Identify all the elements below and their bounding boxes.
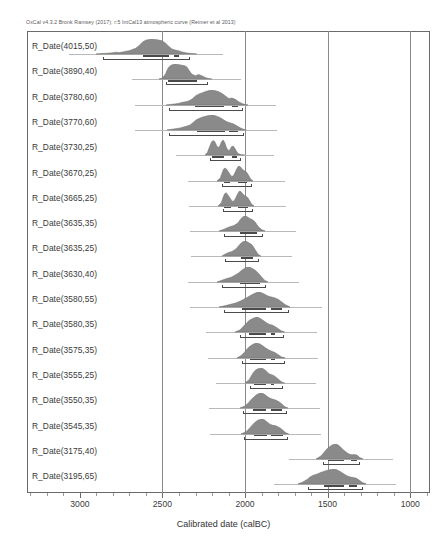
axis-tick-label: 3000 <box>70 499 89 509</box>
hpd95-range-cap <box>240 335 241 338</box>
hpd95-range-cap <box>169 133 170 136</box>
row-label: R_Date(3635,25) <box>32 243 97 253</box>
hpd68-range-segment <box>271 384 273 386</box>
row-label: R_Date(3780,60) <box>32 92 97 102</box>
hpd95-range-bar <box>250 388 282 389</box>
hpd68-range-segment <box>240 283 260 285</box>
row-label: R_Date(3890,40) <box>32 66 97 76</box>
hpd95-range-cap <box>223 209 224 212</box>
probability-distribution <box>235 317 285 333</box>
hpd68-range-segment <box>324 485 344 487</box>
hpd68-range-segment <box>238 207 248 209</box>
row-label: R_Date(3555,25) <box>32 370 97 380</box>
row-label: R_Date(3575,35) <box>32 345 97 355</box>
row-label: R_Date(3670,25) <box>32 168 97 178</box>
gridline-1000 <box>410 31 411 493</box>
row-label: R_Date(3770,60) <box>32 117 97 127</box>
probability-distribution <box>219 216 265 232</box>
axis-tick-label: 1000 <box>401 499 420 509</box>
hpd95-range-cap <box>308 487 309 490</box>
axis-minor-tick <box>344 493 345 496</box>
probability-distribution <box>240 393 288 409</box>
hpd68-range-segment <box>271 435 283 437</box>
axis-minor-tick <box>96 493 97 496</box>
hpd95-range-cap <box>166 82 167 85</box>
hpd95-range-bar <box>224 312 288 313</box>
hpd68-range-segment <box>229 131 239 133</box>
probability-distribution <box>298 469 367 485</box>
axis-minor-tick <box>30 493 31 496</box>
hpd95-range-cap <box>210 158 211 161</box>
gridline-1500 <box>328 31 329 493</box>
hpd95-range-bar <box>308 489 363 490</box>
row-label: R_Date(3665,25) <box>32 193 97 203</box>
axis-minor-tick <box>262 493 263 496</box>
hpd95-range-bar <box>166 84 207 85</box>
axis-minor-tick <box>212 493 213 496</box>
hpd68-range-segment <box>351 460 358 462</box>
axis-major-tick <box>162 493 163 498</box>
hpd68-range-segment <box>174 55 179 57</box>
axis-major-tick <box>80 493 81 498</box>
oxcal-credit-line: OxCal v4.3.2 Bronk Ramsey (2017); r:5 In… <box>26 19 236 25</box>
axis-minor-tick <box>146 493 147 496</box>
axis-minor-tick <box>295 493 296 496</box>
hpd95-range-cap <box>242 108 243 111</box>
axis-minor-tick <box>427 493 428 496</box>
axis-major-tick <box>328 493 329 498</box>
probability-distribution <box>96 39 197 55</box>
hpd95-range-cap <box>225 259 226 262</box>
hpd68-range-segment <box>224 182 231 184</box>
hpd68-range-segment <box>197 131 225 133</box>
axis-tick-label: 1500 <box>318 499 337 509</box>
probability-distribution <box>205 140 245 156</box>
oxcal-plot: OxCal v4.3.2 Bronk Ramsey (2017); r:5 In… <box>0 0 447 541</box>
hpd95-range-bar <box>222 186 251 187</box>
hpd95-range-cap <box>286 411 287 414</box>
hpd95-range-bar <box>224 236 262 237</box>
hpd68-range-segment <box>168 80 197 82</box>
row-label: R_Date(3550,35) <box>32 395 97 405</box>
hpd95-range-cap <box>251 184 252 187</box>
row-label: R_Date(3195,65) <box>32 471 97 481</box>
probability-distribution <box>159 64 212 80</box>
axis-tick-label: 2000 <box>235 499 254 509</box>
x-axis-title: Calibrated date (calBC) <box>0 519 447 529</box>
hpd95-range-cap <box>283 335 284 338</box>
axis-minor-tick <box>278 493 279 496</box>
axis-minor-tick <box>129 493 130 496</box>
hpd95-range-cap <box>359 462 360 465</box>
hpd68-range-segment <box>271 359 275 361</box>
hpd95-range-bar <box>323 464 359 465</box>
hpd95-range-cap <box>284 361 285 364</box>
row-label: R_Date(3175,40) <box>32 446 97 456</box>
probability-distribution <box>222 241 261 257</box>
row-label: R_Date(3580,55) <box>32 294 97 304</box>
hpd95-range-cap <box>240 158 241 161</box>
hpd95-range-bar <box>240 337 283 338</box>
axis-minor-tick <box>113 493 114 496</box>
axis-tick-label: 2500 <box>153 499 172 509</box>
hpd68-range-segment <box>224 207 231 209</box>
axis-minor-tick <box>377 493 378 496</box>
hpd95-range-bar <box>169 110 242 111</box>
axis-major-tick <box>245 493 246 498</box>
axis-major-tick <box>410 493 411 498</box>
hpd68-range-segment <box>232 106 239 108</box>
hpd95-range-bar <box>103 59 189 60</box>
hpd68-range-segment <box>242 308 267 310</box>
hpd95-range-bar <box>169 135 243 136</box>
hpd95-range-cap <box>243 133 244 136</box>
hpd95-range-cap <box>288 310 289 313</box>
hpd68-range-segment <box>143 55 169 57</box>
axis-minor-tick <box>63 493 64 496</box>
hpd95-range-cap <box>222 184 223 187</box>
axis-minor-tick <box>179 493 180 496</box>
probability-distribution <box>218 191 254 207</box>
hpd95-range-cap <box>258 259 259 262</box>
hpd68-range-segment <box>349 485 357 487</box>
hpd68-range-segment <box>212 156 224 158</box>
probability-distribution <box>241 419 289 435</box>
hpd95-range-bar <box>210 160 240 161</box>
probability-distribution <box>316 444 363 460</box>
